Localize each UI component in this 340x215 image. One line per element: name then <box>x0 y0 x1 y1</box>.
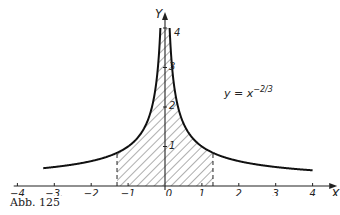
x-tick-label: 3 <box>273 188 279 196</box>
figure: −4−3.−2−1012341234XYy = x−2/3 <box>0 0 340 196</box>
function-label-base: y = x <box>223 87 254 100</box>
x-tick-label: 4 <box>309 188 315 196</box>
x-tick-label: −4 <box>10 188 25 196</box>
function-label-exponent: −2/3 <box>253 85 273 94</box>
x-tick-label: −3. <box>45 188 63 196</box>
function-label: y = x−2/3 <box>223 85 273 100</box>
y-tick-label: 1 <box>169 140 175 151</box>
y-tick-label: 3 <box>169 61 175 72</box>
figure-caption: Abb. 125 <box>10 196 60 209</box>
x-tick-label: −2 <box>84 188 99 196</box>
x-axis-label: X <box>330 187 340 196</box>
x-tick-label: 2 <box>236 188 242 196</box>
x-tick-label: −1 <box>121 188 136 196</box>
y-tick-label: 4 <box>174 27 180 38</box>
y-tick-label: 2 <box>169 100 175 111</box>
x-tick-label: 0 <box>166 188 172 196</box>
x-tick-label: 1 <box>199 188 205 196</box>
y-axis-arrow <box>162 12 168 20</box>
